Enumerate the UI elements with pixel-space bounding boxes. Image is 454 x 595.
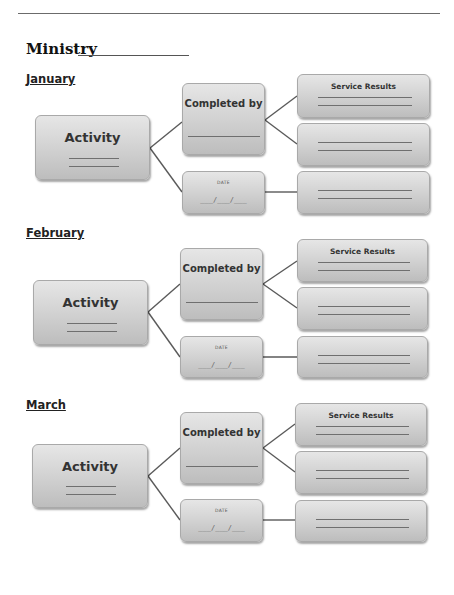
service-results-box-march-1[interactable]: Service Results [295, 403, 427, 446]
activity-blank-2[interactable] [67, 331, 117, 332]
service-results-box-february-2[interactable] [297, 287, 428, 330]
date-box-march[interactable]: DATE ___/___/___ [180, 499, 263, 542]
activity-label: Activity [34, 295, 147, 310]
activity-label: Activity [36, 130, 149, 145]
activity-blank-1[interactable] [67, 323, 117, 324]
service-results-box-january-1[interactable]: Service Results [297, 74, 430, 118]
service-results-box-february-1[interactable]: Service Results [297, 239, 428, 282]
result-blank-2[interactable] [318, 198, 412, 199]
completed-by-label: Completed by [183, 98, 264, 109]
service-results-box-january-3[interactable] [297, 171, 430, 214]
date-box-january[interactable]: DATE ___/___/___ [182, 171, 265, 214]
result-blank-1[interactable] [316, 470, 409, 471]
date-blank[interactable]: ___/___/___ [181, 524, 262, 532]
activity-label: Activity [33, 459, 147, 474]
activity-blank-1[interactable] [66, 486, 116, 487]
activity-blank-2[interactable] [66, 494, 116, 495]
result-blank-1[interactable] [318, 97, 412, 98]
activity-box-february[interactable]: Activity [33, 280, 148, 345]
completed-by-box-january[interactable]: Completed by [182, 83, 265, 155]
completed-by-blank[interactable] [186, 466, 258, 467]
month-heading-march: March [26, 398, 66, 412]
activity-box-january[interactable]: Activity [35, 115, 150, 180]
completed-by-blank[interactable] [188, 136, 260, 137]
service-results-label: Service Results [296, 411, 426, 420]
month-heading-february: February [26, 226, 84, 240]
completed-by-blank[interactable] [186, 302, 258, 303]
result-blank-1[interactable] [318, 355, 410, 356]
result-blank-1[interactable] [318, 190, 412, 191]
activity-blank-1[interactable] [69, 158, 119, 159]
date-label: DATE [183, 180, 264, 185]
result-blank-2[interactable] [318, 363, 410, 364]
date-box-february[interactable]: DATE ___/___/___ [180, 336, 263, 378]
result-blank-2[interactable] [316, 527, 409, 528]
result-blank-2[interactable] [318, 314, 410, 315]
completed-by-box-february[interactable]: Completed by [180, 248, 263, 320]
date-label: DATE [181, 508, 262, 513]
result-blank-2[interactable] [316, 434, 409, 435]
activity-box-march[interactable]: Activity [32, 444, 148, 508]
completed-by-label: Completed by [181, 263, 262, 274]
result-blank-2[interactable] [318, 105, 412, 106]
result-blank-2[interactable] [318, 270, 410, 271]
service-results-box-january-2[interactable] [297, 123, 430, 166]
completed-by-label: Completed by [181, 427, 262, 438]
result-blank-1[interactable] [316, 519, 409, 520]
month-heading-january: January [26, 72, 75, 86]
result-blank-2[interactable] [316, 478, 409, 479]
service-results-box-march-3[interactable] [295, 500, 427, 542]
result-blank-1[interactable] [318, 262, 410, 263]
completed-by-box-march[interactable]: Completed by [180, 412, 263, 484]
service-results-box-february-3[interactable] [297, 336, 428, 378]
activity-blank-2[interactable] [69, 166, 119, 167]
service-results-label: Service Results [298, 82, 429, 91]
result-blank-1[interactable] [318, 142, 412, 143]
service-results-label: Service Results [298, 247, 427, 256]
date-blank[interactable]: ___/___/___ [181, 361, 262, 369]
result-blank-1[interactable] [318, 306, 410, 307]
date-label: DATE [181, 345, 262, 350]
service-results-box-march-2[interactable] [295, 451, 427, 494]
result-blank-1[interactable] [316, 426, 409, 427]
date-blank[interactable]: ___/___/___ [183, 196, 264, 204]
result-blank-2[interactable] [318, 150, 412, 151]
